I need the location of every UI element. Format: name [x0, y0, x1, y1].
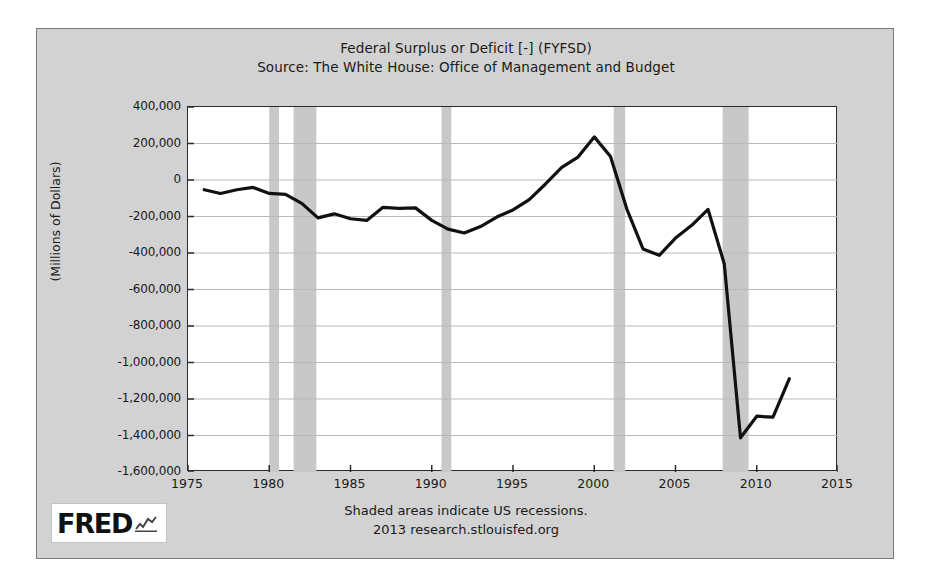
x-axis-tick-labels: 197519801985199019952000200520102015 — [187, 476, 837, 496]
y-axis-tick-label: -800,000 — [129, 318, 181, 332]
y-axis-tick-label: -1,000,000 — [118, 355, 181, 369]
fred-logo: FRED — [51, 503, 167, 543]
plot-area — [187, 106, 837, 471]
chart-title-block: Federal Surplus or Deficit [-] (FYFSD) S… — [37, 39, 895, 77]
chart-subtitle: Source: The White House: Office of Manag… — [37, 58, 895, 77]
x-axis-tick-label: 1985 — [334, 476, 366, 491]
y-axis-tick-labels: 400,000200,0000-200,000-400,000-600,000-… — [97, 106, 181, 471]
x-axis-tick-label: 2005 — [659, 476, 691, 491]
x-axis-tick-label: 1995 — [496, 476, 528, 491]
x-axis-tick-label: 1980 — [252, 476, 284, 491]
chart-line-icon — [135, 516, 157, 536]
fred-logo-text: FRED — [57, 510, 132, 537]
y-axis-tick-label: 0 — [174, 172, 181, 186]
y-axis-tick-label: -1,200,000 — [118, 391, 181, 405]
y-axis-tick-label: 400,000 — [133, 99, 181, 113]
y-axis-tick-label: -400,000 — [129, 245, 181, 259]
x-axis-tick-label: 1990 — [415, 476, 447, 491]
x-axis-tick-label: 1975 — [171, 476, 203, 491]
y-axis-label: (Millions of Dollars) — [48, 142, 63, 302]
x-axis-tick-label: 2015 — [821, 476, 853, 491]
y-axis-tick-label: 200,000 — [133, 136, 181, 150]
y-axis-tick-label: -600,000 — [129, 282, 181, 296]
y-axis-tick-label: -1,400,000 — [118, 428, 181, 442]
data-series-layer — [204, 137, 789, 438]
y-axis-tick-label: -200,000 — [129, 209, 181, 223]
data-line — [204, 137, 789, 438]
x-axis-tick-label: 2010 — [740, 476, 772, 491]
chart-title: Federal Surplus or Deficit [-] (FYFSD) — [37, 39, 895, 58]
chart-canvas — [188, 107, 838, 472]
x-axis-tick-label: 2000 — [577, 476, 609, 491]
fred-chart-figure: Federal Surplus or Deficit [-] (FYFSD) S… — [36, 28, 894, 559]
